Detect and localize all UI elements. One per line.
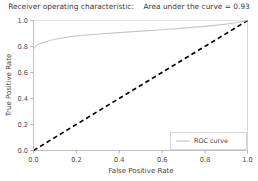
y-tick-label-2: 0.4 [18,95,29,103]
legend-label-roc-curve: ROC curve [194,137,228,145]
y-tick-label-3: 0.6 [18,69,29,77]
y-tick-labels: 0.0 0.2 0.4 0.6 0.8 1.0 [18,17,29,155]
roc-chart-figure: Receiver operating characteristic: Area … [0,0,258,181]
y-tick-label-1: 0.2 [18,121,29,129]
x-tick-labels: 0.0 0.2 0.4 0.6 0.8 1.0 [28,156,253,164]
series-group [34,21,248,151]
legend[interactable]: ROC curve [171,133,247,150]
x-tick-label-3: 0.6 [157,156,168,164]
y-tick-label-4: 0.8 [18,43,29,51]
x-tick-label-2: 0.4 [114,156,125,164]
y-tick-label-5: 1.0 [18,17,29,25]
y-axis-title: True Positive Rate [5,54,13,117]
x-tick-label-5: 1.0 [242,156,253,164]
roc-plot-canvas: 0.0 0.2 0.4 0.6 0.8 1.0 0.0 0.2 0.4 0.6 … [0,0,258,181]
x-axis-title: False Positive Rate [108,167,173,175]
x-tick-label-4: 0.8 [200,156,211,164]
chance-diagonal-line [34,21,248,151]
y-tick-label-0: 0.0 [18,147,29,155]
x-tick-label-1: 0.2 [71,156,82,164]
x-tick-label-0: 0.0 [28,156,39,164]
